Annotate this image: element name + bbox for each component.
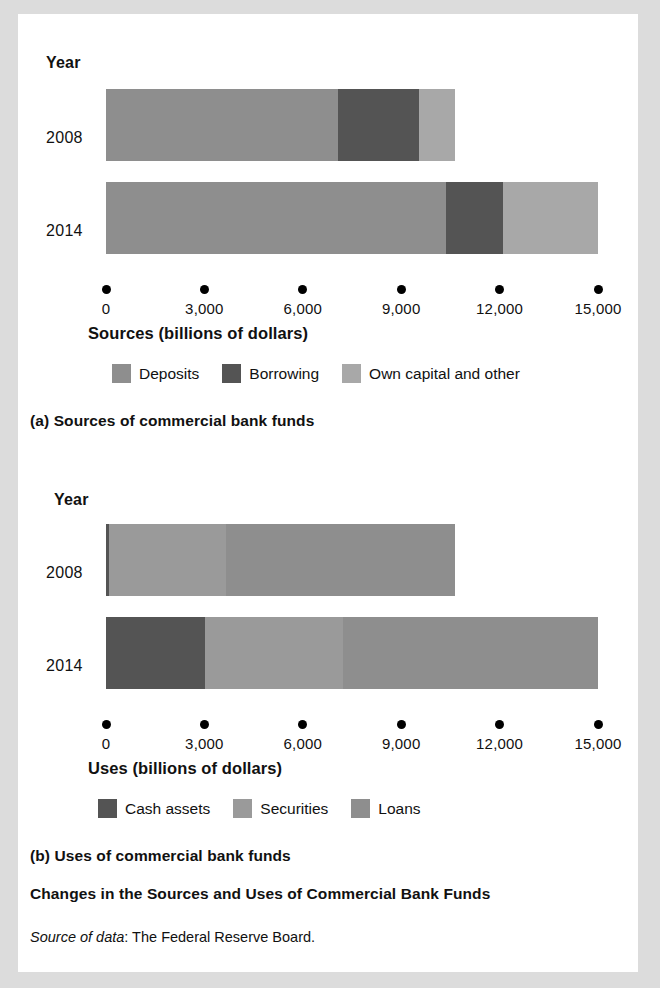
page-border-right	[638, 0, 660, 988]
figure-title: Changes in the Sources and Uses of Comme…	[30, 885, 490, 903]
bar-uses-2008	[106, 524, 455, 596]
legend-uses-swatch-2	[351, 799, 370, 818]
year-axis-header-a: Year	[46, 54, 81, 72]
legend-sources: DepositsBorrowingOwn capital and other	[112, 364, 534, 383]
page-border-left	[0, 0, 18, 988]
x-axis-b-tick-label-4: 12,000	[465, 735, 535, 752]
x-axis-a-tick-dot-4	[495, 285, 504, 294]
x-axis-title-b: Uses (billions of dollars)	[88, 759, 282, 778]
x-axis-b-tick-dot-1	[200, 720, 209, 729]
legend-uses-item-loans: Loans	[351, 799, 420, 818]
panel-caption-b: (b) Uses of commercial bank funds	[30, 847, 291, 865]
x-axis-b-tick-label-5: 15,000	[563, 735, 633, 752]
bar-sources-2008-segment-own-capital-and-other	[419, 89, 455, 161]
legend-uses-item-securities: Securities	[233, 799, 328, 818]
bar-sources-2014-segment-deposits	[106, 182, 446, 254]
category-label-b-2014: 2014	[46, 657, 83, 675]
page-border-bottom	[0, 972, 660, 988]
panel-caption-a: (a) Sources of commercial bank funds	[30, 412, 314, 430]
x-axis-a-tick-dot-5	[594, 285, 603, 294]
figure-page: Year 2008 2014 03,0006,0009,00012,00015,…	[0, 0, 660, 988]
legend-sources-item-deposits: Deposits	[112, 364, 199, 383]
x-axis-a-tick-dot-2	[298, 285, 307, 294]
bar-sources-2008-segment-deposits	[106, 89, 338, 161]
bar-uses-2014	[106, 617, 598, 689]
category-label-b-2008: 2008	[46, 564, 83, 582]
source-note-text: : The Federal Reserve Board.	[124, 929, 315, 945]
x-axis-b-tick-label-1: 3,000	[169, 735, 239, 752]
bar-uses-2008-segment-securities	[109, 524, 226, 596]
legend-uses-label-2: Loans	[378, 800, 420, 818]
x-axis-b-tick-dot-4	[495, 720, 504, 729]
legend-uses: Cash assetsSecuritiesLoans	[98, 799, 435, 818]
legend-sources-label-2: Own capital and other	[369, 365, 520, 383]
category-label-a-2008: 2008	[46, 129, 83, 147]
x-axis-a-tick-dot-0	[102, 285, 111, 294]
bar-uses-2014-segment-cash-assets	[106, 617, 205, 689]
bar-sources-2008	[106, 89, 455, 161]
legend-uses-label-1: Securities	[260, 800, 328, 818]
source-note: Source of data: The Federal Reserve Boar…	[30, 929, 315, 945]
bar-sources-2014	[106, 182, 598, 254]
bar-sources-2014-segment-borrowing	[446, 182, 503, 254]
legend-uses-swatch-1	[233, 799, 252, 818]
x-axis-b-tick-dot-0	[102, 720, 111, 729]
x-axis-a-tick-dot-1	[200, 285, 209, 294]
x-axis-a-tick-label-3: 9,000	[366, 300, 436, 317]
x-axis-a-tick-label-2: 6,000	[268, 300, 338, 317]
x-axis-b-tick-dot-3	[397, 720, 406, 729]
legend-sources-item-borrowing: Borrowing	[222, 364, 319, 383]
figure-canvas: Year 2008 2014 03,0006,0009,00012,00015,…	[18, 14, 638, 972]
legend-uses-label-0: Cash assets	[125, 800, 210, 818]
x-axis-a-tick-label-1: 3,000	[169, 300, 239, 317]
x-axis-b-tick-label-0: 0	[71, 735, 141, 752]
bar-uses-2014-segment-securities	[205, 617, 343, 689]
legend-sources-item-own-capital-and-other: Own capital and other	[342, 364, 520, 383]
legend-sources-swatch-1	[222, 364, 241, 383]
legend-sources-label-1: Borrowing	[249, 365, 319, 383]
legend-uses-item-cash-assets: Cash assets	[98, 799, 210, 818]
x-axis-a-tick-label-5: 15,000	[563, 300, 633, 317]
page-border-top	[0, 0, 660, 14]
year-axis-header-b: Year	[54, 491, 89, 509]
x-axis-a-tick-dot-3	[397, 285, 406, 294]
source-note-prefix: Source of data	[30, 929, 124, 945]
bar-uses-2008-segment-loans	[226, 524, 455, 596]
x-axis-title-a: Sources (billions of dollars)	[88, 324, 308, 343]
x-axis-a-tick-label-4: 12,000	[465, 300, 535, 317]
x-axis-a-tick-label-0: 0	[71, 300, 141, 317]
legend-sources-swatch-0	[112, 364, 131, 383]
legend-uses-swatch-0	[98, 799, 117, 818]
x-axis-b-tick-dot-2	[298, 720, 307, 729]
bar-uses-2014-segment-loans	[343, 617, 598, 689]
x-axis-b-tick-dot-5	[594, 720, 603, 729]
category-label-a-2014: 2014	[46, 222, 83, 240]
bar-sources-2008-segment-borrowing	[338, 89, 419, 161]
x-axis-b-tick-label-2: 6,000	[268, 735, 338, 752]
x-axis-b-tick-label-3: 9,000	[366, 735, 436, 752]
bar-sources-2014-segment-own-capital-and-other	[503, 182, 598, 254]
legend-sources-swatch-2	[342, 364, 361, 383]
legend-sources-label-0: Deposits	[139, 365, 199, 383]
